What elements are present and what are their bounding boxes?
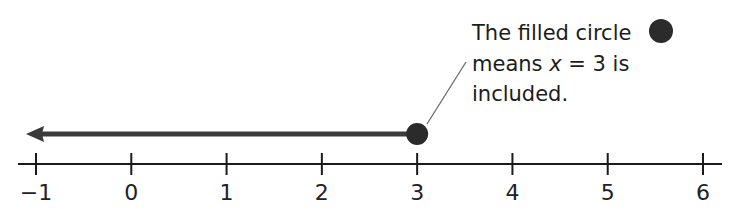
tick-label: 3 [410, 180, 424, 205]
annotation-variable: x [548, 52, 562, 76]
tick-label-group: −10123456 [20, 180, 710, 205]
tick-label: 5 [601, 180, 615, 205]
tick-label: 6 [696, 180, 710, 205]
annotation-leader-line [427, 62, 466, 124]
annotation-text-1: The filled circle [471, 21, 631, 45]
tick-label: −1 [20, 180, 52, 205]
tick-label: 4 [505, 180, 519, 205]
legend-filled-circle-icon [649, 19, 673, 43]
filled-endpoint-circle [406, 123, 428, 145]
number-line-diagram: −10123456 The filled circle means x = 3 … [0, 0, 737, 214]
arrow-left-icon [26, 126, 44, 142]
annotation-text-2-prefix: means [472, 52, 549, 76]
annotation-line-1: The filled circle [471, 21, 631, 45]
tick-label: 2 [315, 180, 329, 205]
annotation-line-3: included. [472, 82, 568, 106]
tick-label: 1 [220, 180, 234, 205]
annotation-line-2: means x = 3 is [472, 52, 629, 76]
annotation-text-2-suffix: = 3 is [562, 52, 630, 76]
annotation-text-3: included. [472, 82, 568, 106]
tick-label: 0 [124, 180, 138, 205]
